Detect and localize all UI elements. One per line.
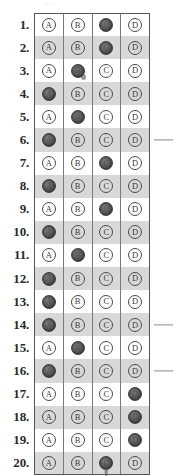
- answer-bubble-a-empty[interactable]: A: [42, 248, 56, 262]
- option-cell-c[interactable]: C: [93, 267, 122, 290]
- answer-bubble-b-empty[interactable]: B: [71, 156, 85, 170]
- answer-bubble-d-empty[interactable]: D: [128, 41, 142, 55]
- answer-bubble-c-filled[interactable]: C: [99, 41, 113, 55]
- option-cell-a[interactable]: A: [35, 152, 64, 175]
- answer-bubble-c-empty[interactable]: C: [99, 248, 113, 262]
- answer-bubble-d-filled[interactable]: D: [128, 387, 142, 401]
- option-cell-d[interactable]: D: [121, 452, 149, 474]
- option-cell-a[interactable]: A: [35, 14, 64, 36]
- option-cell-a[interactable]: A: [35, 383, 64, 406]
- answer-bubble-d-empty[interactable]: D: [128, 318, 142, 332]
- answer-bubble-d-empty[interactable]: D: [128, 272, 142, 286]
- answer-bubble-b-empty[interactable]: B: [71, 456, 85, 470]
- option-cell-a[interactable]: A: [35, 36, 64, 59]
- answer-bubble-a-filled[interactable]: A: [42, 133, 56, 147]
- answer-bubble-a-filled[interactable]: A: [42, 87, 56, 101]
- answer-bubble-d-empty[interactable]: D: [128, 110, 142, 124]
- option-cell-c[interactable]: C: [93, 14, 122, 36]
- option-cell-d[interactable]: D: [121, 59, 149, 82]
- option-cell-a[interactable]: A: [35, 128, 64, 151]
- answer-bubble-d-filled[interactable]: D: [128, 433, 142, 447]
- option-cell-b[interactable]: B: [64, 175, 93, 198]
- answer-bubble-a-filled[interactable]: A: [42, 179, 56, 193]
- option-cell-d[interactable]: D: [121, 267, 149, 290]
- option-cell-c[interactable]: C: [93, 313, 122, 336]
- answer-bubble-d-filled[interactable]: D: [128, 410, 142, 424]
- option-cell-d[interactable]: D: [121, 198, 149, 221]
- option-cell-c[interactable]: C: [93, 359, 122, 382]
- option-cell-b[interactable]: B: [64, 221, 93, 244]
- option-cell-b[interactable]: B: [64, 59, 93, 82]
- answer-bubble-b-filled[interactable]: B: [71, 248, 85, 262]
- answer-bubble-c-empty[interactable]: C: [99, 87, 113, 101]
- option-cell-c[interactable]: C: [93, 429, 122, 452]
- answer-bubble-c-empty[interactable]: C: [99, 64, 113, 78]
- answer-bubble-b-filled[interactable]: B: [71, 64, 85, 78]
- answer-bubble-a-filled[interactable]: A: [42, 225, 56, 239]
- option-cell-d[interactable]: D: [121, 359, 149, 382]
- answer-bubble-a-empty[interactable]: A: [42, 202, 56, 216]
- option-cell-d[interactable]: D: [121, 221, 149, 244]
- option-cell-d[interactable]: D: [121, 105, 149, 128]
- option-cell-c[interactable]: C: [93, 406, 122, 429]
- option-cell-b[interactable]: B: [64, 406, 93, 429]
- answer-bubble-a-filled[interactable]: A: [42, 295, 56, 309]
- option-cell-d[interactable]: D: [121, 82, 149, 105]
- option-cell-b[interactable]: B: [64, 36, 93, 59]
- answer-bubble-b-empty[interactable]: B: [71, 272, 85, 286]
- answer-bubble-b-empty[interactable]: B: [71, 202, 85, 216]
- answer-bubble-c-empty[interactable]: C: [99, 387, 113, 401]
- answer-bubble-b-filled[interactable]: B: [71, 341, 85, 355]
- answer-bubble-a-filled[interactable]: A: [42, 318, 56, 332]
- option-cell-c[interactable]: C: [93, 175, 122, 198]
- option-cell-c[interactable]: C: [93, 244, 122, 267]
- answer-bubble-a-filled[interactable]: A: [42, 272, 56, 286]
- option-cell-b[interactable]: B: [64, 429, 93, 452]
- option-cell-d[interactable]: D: [121, 290, 149, 313]
- option-cell-c[interactable]: C: [93, 105, 122, 128]
- option-cell-b[interactable]: B: [64, 383, 93, 406]
- answer-bubble-c-empty[interactable]: C: [99, 179, 113, 193]
- answer-bubble-d-empty[interactable]: D: [128, 133, 142, 147]
- option-cell-b[interactable]: B: [64, 14, 93, 36]
- answer-bubble-c-filled[interactable]: C: [99, 18, 113, 32]
- option-cell-b[interactable]: B: [64, 82, 93, 105]
- answer-bubble-b-empty[interactable]: B: [71, 364, 85, 378]
- option-cell-a[interactable]: A: [35, 105, 64, 128]
- option-cell-a[interactable]: A: [35, 198, 64, 221]
- answer-bubble-a-empty[interactable]: A: [42, 410, 56, 424]
- answer-bubble-d-empty[interactable]: D: [128, 364, 142, 378]
- answer-bubble-b-empty[interactable]: B: [71, 410, 85, 424]
- answer-bubble-a-empty[interactable]: A: [42, 387, 56, 401]
- answer-bubble-a-empty[interactable]: A: [42, 110, 56, 124]
- option-cell-c[interactable]: C: [93, 59, 122, 82]
- option-cell-b[interactable]: B: [64, 290, 93, 313]
- answer-bubble-a-empty[interactable]: A: [42, 433, 56, 447]
- answer-bubble-c-filled[interactable]: C: [99, 156, 113, 170]
- answer-bubble-d-empty[interactable]: D: [128, 456, 142, 470]
- answer-bubble-d-empty[interactable]: D: [128, 225, 142, 239]
- answer-bubble-d-empty[interactable]: D: [128, 156, 142, 170]
- option-cell-c[interactable]: C: [93, 383, 122, 406]
- option-cell-c[interactable]: C: [93, 290, 122, 313]
- answer-bubble-c-empty[interactable]: C: [99, 225, 113, 239]
- option-cell-a[interactable]: A: [35, 429, 64, 452]
- option-cell-b[interactable]: B: [64, 244, 93, 267]
- option-cell-d[interactable]: D: [121, 128, 149, 151]
- option-cell-d[interactable]: D: [121, 383, 149, 406]
- answer-bubble-d-empty[interactable]: D: [128, 87, 142, 101]
- option-cell-b[interactable]: B: [64, 198, 93, 221]
- answer-bubble-a-empty[interactable]: A: [42, 18, 56, 32]
- option-cell-b[interactable]: B: [64, 267, 93, 290]
- option-cell-a[interactable]: A: [35, 336, 64, 359]
- answer-bubble-b-empty[interactable]: B: [71, 87, 85, 101]
- option-cell-b[interactable]: B: [64, 128, 93, 151]
- option-cell-c[interactable]: C: [93, 452, 122, 474]
- option-cell-d[interactable]: D: [121, 406, 149, 429]
- option-cell-c[interactable]: C: [93, 198, 122, 221]
- answer-bubble-a-empty[interactable]: A: [42, 156, 56, 170]
- answer-bubble-d-empty[interactable]: D: [128, 295, 142, 309]
- option-cell-b[interactable]: B: [64, 105, 93, 128]
- answer-bubble-c-empty[interactable]: C: [99, 272, 113, 286]
- answer-bubble-c-empty[interactable]: C: [99, 110, 113, 124]
